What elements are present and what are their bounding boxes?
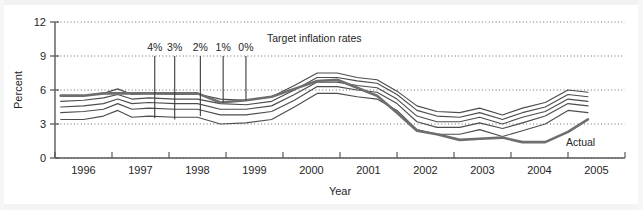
x-tick-label: 2000 xyxy=(299,164,323,176)
inflation-fan-chart: 036912 199619971998199920002001200220032… xyxy=(0,0,643,210)
actual-series xyxy=(61,80,588,142)
x-axis-title: Year xyxy=(329,185,352,197)
x-axis xyxy=(55,152,625,158)
target-rate-label: 3% xyxy=(167,41,182,53)
y-tick-label: 9 xyxy=(40,50,46,62)
x-tick-label: 2005 xyxy=(584,164,608,176)
chart-figure: 036912 199619971998199920002001200220032… xyxy=(0,0,643,210)
x-tick-label: 1997 xyxy=(128,164,152,176)
target-rate-label: 0% xyxy=(238,41,253,53)
y-tick-label: 6 xyxy=(40,84,46,96)
x-tick-label: 1998 xyxy=(185,164,209,176)
x-tick-label: 1999 xyxy=(242,164,266,176)
y-tick-labels: 036912 xyxy=(34,16,46,164)
fan-band-series xyxy=(61,73,588,136)
target-rate-label: 1% xyxy=(216,41,231,53)
legend-title: Target inflation rates xyxy=(267,32,362,44)
x-tick-label: 2001 xyxy=(356,164,380,176)
x-tick-label: 2003 xyxy=(470,164,494,176)
target-rate-label: 2% xyxy=(193,41,208,53)
target-rate-leader-lines xyxy=(155,56,246,119)
target-rate-labels: 4%3%2%1%0% xyxy=(147,41,253,53)
y-tick-label: 3 xyxy=(40,118,46,130)
x-tick-label: 2004 xyxy=(527,164,551,176)
target-rate-label: 4% xyxy=(147,41,162,53)
x-tick-label: 1996 xyxy=(71,164,95,176)
fan-band-line xyxy=(61,93,588,136)
y-axis xyxy=(50,22,59,158)
y-tick-label: 12 xyxy=(34,16,46,28)
y-tick-label: 0 xyxy=(40,152,46,164)
actual-line xyxy=(61,80,588,142)
y-axis-title: Percent xyxy=(12,71,24,109)
x-tick-label: 2002 xyxy=(413,164,437,176)
actual-series-label: Actual xyxy=(566,136,595,148)
x-tick-labels: 1996199719981999200020012002200320042005 xyxy=(71,164,608,176)
